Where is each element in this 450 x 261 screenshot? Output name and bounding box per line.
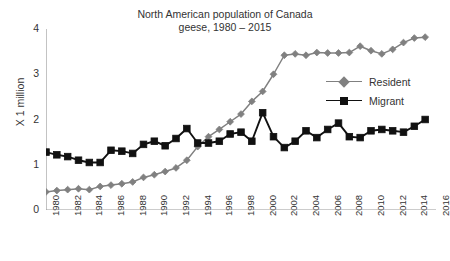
data-point-resident bbox=[118, 180, 125, 187]
data-point-resident bbox=[303, 52, 310, 59]
chart-canvas bbox=[46, 29, 436, 210]
data-point-resident bbox=[422, 34, 429, 41]
data-point-resident bbox=[75, 185, 82, 192]
data-point-migrant bbox=[108, 147, 115, 154]
data-point-migrant bbox=[173, 135, 180, 142]
data-point-resident bbox=[335, 50, 342, 57]
chart-title-line-1: North American population of Canada bbox=[0, 8, 450, 21]
data-point-migrant bbox=[249, 138, 256, 145]
data-point-resident bbox=[324, 50, 331, 57]
data-point-migrant bbox=[281, 144, 288, 151]
data-point-migrant bbox=[368, 128, 375, 135]
data-point-resident bbox=[389, 46, 396, 53]
data-point-migrant bbox=[357, 134, 364, 141]
data-point-migrant bbox=[97, 159, 104, 166]
data-point-resident bbox=[108, 182, 115, 189]
y-axis-tick-label: 2 bbox=[19, 113, 39, 125]
chart-figure: North American population of Canada gees… bbox=[0, 0, 450, 261]
data-point-migrant bbox=[194, 140, 201, 147]
data-point-migrant bbox=[335, 120, 342, 127]
data-point-migrant bbox=[314, 134, 321, 141]
data-point-resident bbox=[292, 50, 299, 57]
plot-area bbox=[46, 29, 436, 210]
diamond-marker-icon bbox=[338, 76, 349, 87]
data-point-migrant bbox=[346, 133, 353, 140]
data-point-migrant bbox=[151, 138, 158, 145]
legend-item-resident[interactable]: Resident bbox=[326, 72, 410, 91]
data-point-migrant bbox=[259, 109, 266, 116]
data-point-migrant bbox=[129, 150, 136, 157]
data-point-resident bbox=[346, 49, 353, 56]
data-point-migrant bbox=[86, 159, 93, 166]
series-line-migrant bbox=[46, 113, 425, 163]
data-point-resident bbox=[281, 52, 288, 59]
data-point-migrant bbox=[400, 129, 407, 136]
data-point-migrant bbox=[184, 125, 191, 132]
data-point-migrant bbox=[324, 126, 331, 133]
y-axis-tick-label: 1 bbox=[19, 158, 39, 170]
data-point-resident bbox=[378, 50, 385, 57]
data-point-migrant bbox=[205, 140, 212, 147]
legend-swatch-migrant bbox=[326, 95, 362, 107]
data-point-migrant bbox=[75, 157, 82, 164]
data-point-migrant bbox=[46, 149, 49, 156]
data-point-migrant bbox=[292, 138, 299, 145]
data-point-resident bbox=[368, 47, 375, 54]
chart-legend: ResidentMigrant bbox=[326, 72, 410, 110]
data-point-migrant bbox=[162, 142, 169, 149]
data-point-resident bbox=[129, 179, 136, 186]
data-point-migrant bbox=[216, 138, 223, 145]
y-axis-tick-label: 4 bbox=[19, 22, 39, 34]
data-point-resident bbox=[64, 186, 71, 193]
y-axis-tick-label: 3 bbox=[19, 67, 39, 79]
legend-label: Migrant bbox=[369, 95, 404, 107]
data-point-migrant bbox=[119, 148, 126, 155]
data-point-resident bbox=[53, 187, 60, 194]
data-point-migrant bbox=[238, 129, 245, 136]
data-point-resident bbox=[400, 39, 407, 46]
data-point-migrant bbox=[422, 116, 429, 123]
data-point-migrant bbox=[379, 126, 386, 133]
y-axis-tick-label: 0 bbox=[19, 203, 39, 215]
data-point-resident bbox=[411, 35, 418, 42]
data-point-migrant bbox=[389, 128, 396, 135]
data-point-resident bbox=[151, 171, 158, 178]
data-point-resident bbox=[313, 49, 320, 56]
data-point-resident bbox=[97, 183, 104, 190]
data-point-migrant bbox=[227, 131, 234, 138]
square-marker-icon bbox=[340, 97, 348, 105]
data-point-migrant bbox=[411, 123, 418, 130]
data-point-resident bbox=[86, 186, 93, 193]
data-point-resident bbox=[357, 43, 364, 50]
data-point-resident bbox=[140, 174, 147, 181]
data-point-migrant bbox=[303, 128, 310, 135]
data-point-migrant bbox=[270, 133, 277, 140]
legend-label: Resident bbox=[369, 76, 410, 88]
legend-swatch-resident bbox=[326, 76, 362, 88]
x-axis-tick-label: 2016 bbox=[440, 195, 450, 216]
data-point-migrant bbox=[54, 152, 61, 159]
data-point-migrant bbox=[64, 153, 71, 160]
series-line-resident bbox=[46, 37, 425, 192]
data-point-resident bbox=[162, 168, 169, 175]
data-point-resident bbox=[46, 189, 49, 196]
legend-item-migrant[interactable]: Migrant bbox=[326, 91, 410, 110]
data-point-migrant bbox=[140, 141, 147, 148]
